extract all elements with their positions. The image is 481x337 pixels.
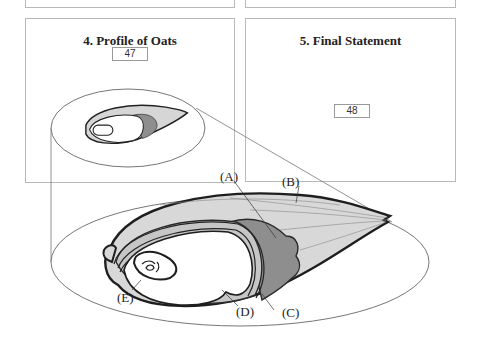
profile-of-oats-panel: 4. Profile of Oats 47	[25, 18, 235, 183]
hull-veins	[160, 198, 388, 250]
panel-title: 5. Final Statement	[246, 33, 455, 49]
seed-coat-lines	[114, 222, 264, 298]
bran-layer-light	[116, 220, 262, 303]
label-d: (D)	[236, 304, 254, 319]
final-statement-panel: 5. Final Statement 48	[245, 18, 456, 182]
top-right-panel-partial	[245, 0, 456, 8]
page-number-box: 48	[334, 104, 370, 118]
magnified-ellipse	[51, 198, 429, 326]
germ	[103, 245, 176, 279]
leader-lines	[132, 181, 299, 310]
label-e: (E)	[117, 290, 134, 305]
bran-layer-dark	[230, 219, 299, 300]
hull-outer	[105, 193, 390, 305]
endosperm	[124, 231, 252, 305]
top-left-panel-partial	[25, 0, 235, 8]
label-c: (C)	[282, 305, 299, 320]
page-number-box: 47	[112, 47, 148, 61]
